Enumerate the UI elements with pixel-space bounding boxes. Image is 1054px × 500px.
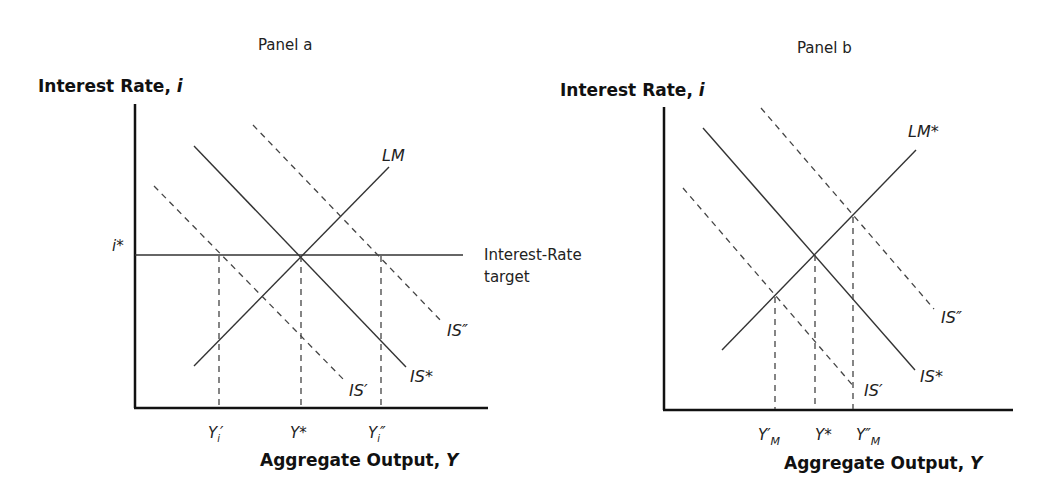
panel-b-is-prime-curve [683,188,855,388]
panel-b-title: Panel b [797,39,852,57]
panel-a-lm-curve [194,167,389,366]
panel-a-title: Panel a [258,36,312,54]
panel-a-y-axis-title: Interest Rate, i [38,76,184,96]
panel-a-target-label-2: target [484,268,530,286]
panel-b-is-double-prime-label: IS″ [941,308,962,327]
panel-b-ym-double-label: Y″M [856,426,881,448]
panel-b: Panel b Interest Rate, i LM* IS* IS′ IS″… [560,39,1013,473]
panel-a-is-double-prime-label: IS″ [447,321,468,340]
panel-b-x-axis-title: Aggregate Output, Y [784,453,984,473]
panel-b-is-prime-label: IS′ [864,381,883,400]
panel-a-lm-label: LM [382,146,405,165]
panel-b-lm-star-label: LM* [908,122,939,141]
panel-b-y-star-label: Y* [815,426,832,444]
panel-b-is-star-label: IS* [920,367,943,386]
panel-a-is-prime-label: IS′ [349,381,368,400]
panel-a-y-star-label: Y* [290,424,307,442]
panel-b-y-axis-title: Interest Rate, i [560,80,706,100]
diagram-canvas: Panel a Interest Rate, i i* Interest-Rat… [0,0,1054,500]
panel-a-is-star-label: IS* [410,367,433,386]
panel-a: Panel a Interest Rate, i i* Interest-Rat… [38,36,582,470]
panel-a-yi-double-label: Yi″ [368,424,386,444]
panel-a-yi-prime-label: Yi′ [208,424,224,444]
panel-a-target-label-1: Interest-Rate [484,246,582,264]
panel-a-x-axis-title: Aggregate Output, Y [260,450,460,470]
panel-a-is-double-prime-curve [253,125,443,323]
panel-b-lm-star-curve [722,150,916,350]
panel-b-ym-prime-label: Y′M [758,426,781,448]
panel-a-is-prime-curve [154,186,346,382]
panel-a-i-star-label: i* [112,237,124,255]
